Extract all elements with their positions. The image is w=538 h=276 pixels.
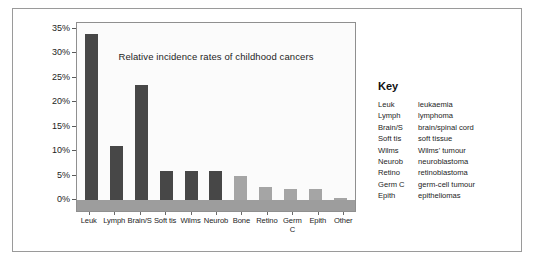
x-axis-tick: Wilms [178, 213, 203, 231]
key-entry-full: neuroblastoma [418, 156, 508, 167]
chart-key: Key LeukleukaemiaLymphlymphomaBrain/Sbra… [378, 80, 508, 202]
key-entry: WilmsWilms' tumour [378, 145, 508, 156]
bar-brain-s [135, 85, 148, 211]
y-axis-tick: 25% [8, 72, 76, 82]
x-axis-tick: Neurob [203, 213, 228, 231]
key-entry-full: brain/spinal cord [418, 122, 508, 133]
y-axis-tick: 5% [8, 170, 76, 180]
plot-area: Relative incidence rates of childhood ca… [76, 22, 356, 212]
x-axis: LeukLymphBrain/SSoft tisWilmsNeurobBoneR… [76, 213, 356, 231]
key-entry-abbr: Lymph [378, 110, 418, 121]
y-axis-tick: 35% [8, 23, 76, 33]
key-entry-full: lymphoma [418, 110, 508, 121]
key-entry-abbr: Retino [378, 167, 418, 178]
y-axis-tick: 15% [8, 121, 76, 131]
plot-floor-band [77, 200, 355, 211]
key-entry: Neurobneuroblastoma [378, 156, 508, 167]
x-axis-tick: Retino [254, 213, 279, 231]
key-heading: Key [378, 80, 508, 92]
key-entry-abbr: Neurob [378, 156, 418, 167]
x-axis-tick: Germ C [280, 213, 305, 231]
key-entry-full: epitheliomas [418, 190, 508, 201]
key-entry-full: retinoblastoma [418, 167, 508, 178]
key-entry: Soft tissoft tissue [378, 133, 508, 144]
x-axis-tick: Bone [229, 213, 254, 231]
key-entry: Lymphlymphoma [378, 110, 508, 121]
key-entry-full: germ-cell tumour [418, 179, 508, 190]
y-axis: 35%30%25%20%15%10%5%0% [8, 22, 76, 210]
key-entry: Retinoretinoblastoma [378, 167, 508, 178]
y-axis-tick: 30% [8, 47, 76, 57]
chart-title: Relative incidence rates of childhood ca… [77, 51, 355, 62]
x-axis-tick: Epith [305, 213, 330, 231]
y-axis-tick: 20% [8, 96, 76, 106]
y-axis-tick: 10% [8, 145, 76, 155]
key-entry-abbr: Epith [378, 190, 418, 201]
x-axis-tick: Brain/S [127, 213, 152, 231]
x-axis-tick: Leuk [76, 213, 101, 231]
key-entry-abbr: Wilms [378, 145, 418, 156]
key-entry-abbr: Leuk [378, 99, 418, 110]
x-axis-tick: Soft tis [152, 213, 177, 231]
key-entry-full: soft tissue [418, 133, 508, 144]
x-axis-tick: Lymph [101, 213, 126, 231]
y-axis-tick: 0% [8, 194, 76, 204]
key-entry-abbr: Brain/S [378, 122, 418, 133]
key-entry-full: Wilms' tumour [418, 145, 508, 156]
key-entry-abbr: Germ C [378, 179, 418, 190]
key-entry: Brain/Sbrain/spinal cord [378, 122, 508, 133]
key-entry-full: leukaemia [418, 99, 508, 110]
key-entry: Germ Cgerm-cell tumour [378, 179, 508, 190]
key-entry: Epithepitheliomas [378, 190, 508, 201]
x-axis-tick: Other [331, 213, 356, 231]
key-entry: Leukleukaemia [378, 99, 508, 110]
key-entry-list: LeukleukaemiaLymphlymphomaBrain/Sbrain/s… [378, 99, 508, 202]
key-entry-abbr: Soft tis [378, 133, 418, 144]
